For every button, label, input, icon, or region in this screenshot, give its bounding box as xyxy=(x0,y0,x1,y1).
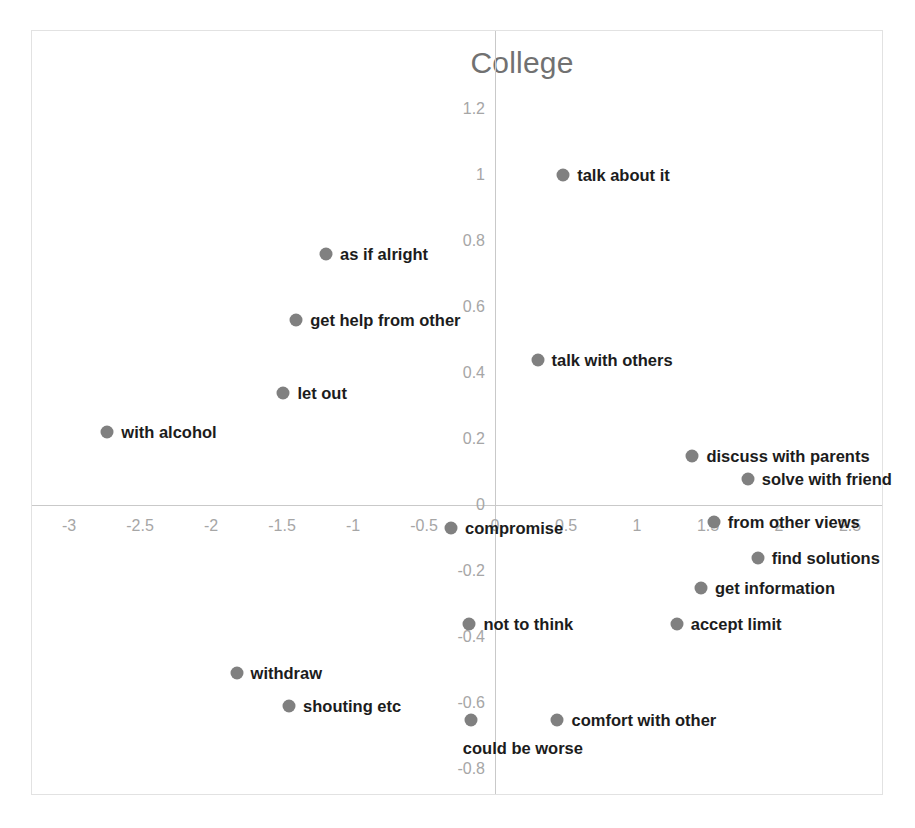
figure-caption xyxy=(26,806,886,826)
scatter-point-label: talk about it xyxy=(577,167,670,184)
scatter-point-marker xyxy=(463,617,476,630)
scatter-point-marker xyxy=(464,713,477,726)
scatter-plot-area: 1.210.80.60.40.20-0.2-0.4-0.6-0.8 -3-2.5… xyxy=(32,31,882,794)
y-tick-label: -0.4 xyxy=(457,629,485,645)
y-tick-label: -0.2 xyxy=(457,563,485,579)
figure-root: College 1.210.80.60.40.20-0.2-0.4-0.6-0.… xyxy=(0,0,915,828)
y-tick-label: -0.8 xyxy=(457,761,485,777)
scatter-point-marker xyxy=(557,169,570,182)
x-tick-label: -1.5 xyxy=(268,518,296,534)
scatter-point-marker xyxy=(751,551,764,564)
scatter-point-label: let out xyxy=(297,384,347,401)
scatter-point-label: get help from other xyxy=(310,312,460,329)
scatter-point-label: talk with others xyxy=(552,351,673,368)
y-tick-label: 0.4 xyxy=(463,365,485,381)
scatter-point-label: as if alright xyxy=(340,246,428,263)
scatter-point-marker xyxy=(707,515,720,528)
scatter-point-marker xyxy=(283,700,296,713)
scatter-point-marker xyxy=(531,353,544,366)
scatter-point-marker xyxy=(320,248,333,261)
scatter-point-label: find solutions xyxy=(772,549,880,566)
scatter-point-marker xyxy=(670,617,683,630)
x-tick-label: -1 xyxy=(346,518,360,534)
scatter-point-label: from other views xyxy=(728,513,860,530)
x-tick-label: -0.5 xyxy=(410,518,438,534)
scatter-point-marker xyxy=(290,314,303,327)
y-tick-label: 1 xyxy=(476,167,485,183)
scatter-point-marker xyxy=(686,449,699,462)
x-axis-line xyxy=(32,505,882,506)
scatter-point-label: not to think xyxy=(483,615,573,632)
y-axis-line xyxy=(495,31,496,794)
scatter-point-marker xyxy=(741,472,754,485)
scatter-point-label: with alcohol xyxy=(121,424,216,441)
x-tick-label: -2 xyxy=(204,518,218,534)
scatter-point-label: get information xyxy=(715,579,835,596)
scatter-point-marker xyxy=(551,713,564,726)
scatter-point-label: compromise xyxy=(465,520,563,537)
scatter-point-label: accept limit xyxy=(691,615,782,632)
scatter-point-label: discuss with parents xyxy=(706,447,869,464)
chart-frame: College 1.210.80.60.40.20-0.2-0.4-0.6-0.… xyxy=(31,30,883,795)
scatter-point-marker xyxy=(694,581,707,594)
scatter-point-label: shouting etc xyxy=(303,698,401,715)
y-tick-label: -0.6 xyxy=(457,695,485,711)
scatter-point-label: could be worse xyxy=(463,740,583,757)
x-tick-label: -3 xyxy=(62,518,76,534)
scatter-point-label: withdraw xyxy=(251,665,323,682)
scatter-point-marker xyxy=(444,522,457,535)
x-tick-label: -2.5 xyxy=(126,518,154,534)
scatter-point-marker xyxy=(277,386,290,399)
x-tick-label: 1 xyxy=(633,518,642,534)
scatter-point-label: solve with friend xyxy=(762,470,892,487)
scatter-point-marker xyxy=(101,426,114,439)
scatter-point-marker xyxy=(230,667,243,680)
scatter-point-label: comfort with other xyxy=(571,711,716,728)
y-tick-label: 0.2 xyxy=(463,431,485,447)
y-tick-label: 0.8 xyxy=(463,233,485,249)
y-tick-label: 0 xyxy=(476,497,485,513)
y-tick-label: 1.2 xyxy=(463,101,485,117)
y-tick-label: 0.6 xyxy=(463,299,485,315)
